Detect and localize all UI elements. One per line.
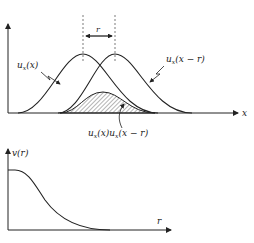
- product-area: [60, 92, 155, 113]
- correlation-diagram: x r ux(x) ux(x − r) ux(x)ux(x − r): [0, 0, 254, 243]
- product-label: ux(x)ux(x − r): [88, 128, 149, 139]
- top-panel: x r ux(x) ux(x − r) ux(x)ux(x − r): [8, 15, 247, 139]
- shift-label: r: [96, 25, 101, 34]
- curve2-pointer: [150, 66, 164, 82]
- curve1-label: ux(x): [17, 60, 39, 71]
- top-x-axis-label: x: [242, 108, 247, 118]
- bottom-y-axis-label: v(r): [12, 148, 29, 158]
- curve2-label: ux(x − r): [166, 54, 205, 65]
- bottom-x-axis-label: r: [157, 216, 162, 226]
- bottom-panel: v(r) r: [8, 148, 171, 230]
- v-r-curve: [8, 170, 110, 230]
